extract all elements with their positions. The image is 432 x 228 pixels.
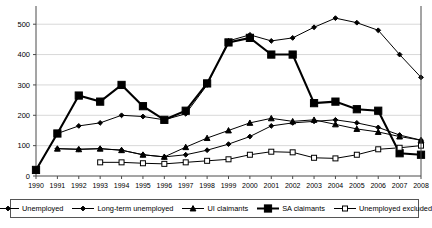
x-tick-label: 2007 [392,182,408,189]
series-line-sa-claimants [36,38,421,170]
y-tick-label: 0 [26,172,30,181]
x-tick-label: 1990 [28,182,44,189]
series-line-ui-claimants [57,118,421,157]
x-tick-label: 2003 [306,182,322,189]
x-tick-label: 2000 [242,182,258,189]
x-tick-label: 2004 [328,182,344,189]
x-tick-label: 1995 [135,182,151,189]
y-axis: 0100200300400500 [17,20,36,181]
x-tick-label: 2005 [349,182,365,189]
legend-item-long-term-unemployed[interactable]: Long-term unemployed [72,204,173,213]
series-line-long-term-unemployed [57,120,421,157]
plot-canvas: 0100200300400500 19901991199219931994199… [0,0,431,196]
legend-label: Long-term unemployed [97,205,173,212]
square-open-marker-icon [334,204,356,213]
legend-item-sa-claimants[interactable]: SA claimants [257,204,325,213]
y-tick-label: 100 [17,141,30,150]
x-tick-label: 2008 [413,182,429,189]
legend-item-ui-claimants[interactable]: UI claimants [182,204,248,213]
series-markers-ui-claimants [54,115,423,159]
x-tick-label: 1993 [92,182,108,189]
chart-legend: UnemployedLong-term unemployedUI claiman… [10,199,419,218]
x-tick-label: 1997 [178,182,194,189]
line-chart: 0100200300400500 19901991199219931994199… [0,0,431,196]
legend-label: Unemployed [22,205,64,212]
series-markers-long-term-unemployed [55,117,423,159]
legend-label: UI claimants [207,205,248,212]
x-tick-label: 1996 [157,182,173,189]
x-tick-label: 1992 [71,182,87,189]
diamond-marker-icon [72,204,94,213]
diamond-marker-icon [0,204,19,213]
series-markers [32,16,424,174]
y-tick-label: 200 [17,111,30,120]
x-tick-label: 1998 [199,182,215,189]
x-tick-label: 1994 [114,182,130,189]
legend-label: Unemployed excluded [359,205,432,212]
x-tick-label: 1999 [221,182,237,189]
y-tick-label: 300 [17,81,30,90]
y-tick-label: 500 [17,20,30,29]
series-line-unemployed-excluded [100,146,421,164]
legend-item-unemployed[interactable]: Unemployed [0,204,63,213]
square-filled-marker-icon [257,204,279,213]
x-tick-label: 2001 [263,182,279,189]
y-tick-label: 400 [17,50,30,59]
x-tick-label: 2002 [285,182,301,189]
legend-label: SA claimants [282,205,325,212]
triangle-marker-icon [182,204,204,213]
legend-item-unemployed-excluded[interactable]: Unemployed excluded [334,204,432,213]
x-tick-label: 2006 [370,182,386,189]
x-tick-label: 1991 [50,182,66,189]
